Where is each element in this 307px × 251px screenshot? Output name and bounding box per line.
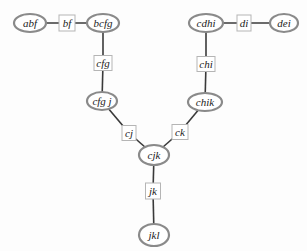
cluster-cjk: cjk <box>139 145 169 165</box>
junction-tree-diagram: bfcfgdichicjckjkabfbcfgcdhideicfg jchikc… <box>0 0 307 251</box>
separator-label: chi <box>199 58 212 70</box>
separator-di: di <box>237 15 251 31</box>
separator-jk: jk <box>146 183 161 199</box>
cluster-dei: dei <box>270 14 298 32</box>
cluster-label: dei <box>277 17 290 29</box>
cluster-label: bcfg <box>94 17 113 29</box>
cluster-label: cdhi <box>197 17 216 29</box>
edges-layer <box>30 23 284 235</box>
cluster-label: abf <box>23 17 39 29</box>
nodes-layer: bfcfgdichicjckjkabfbcfgcdhideicfg jchikc… <box>14 14 298 246</box>
separator-label: ck <box>175 126 186 138</box>
cluster-bcfg: bcfg <box>87 14 119 32</box>
cluster-cfgj: cfg j <box>87 92 117 110</box>
cluster-label: cfg j <box>92 95 111 107</box>
separator-bf: bf <box>59 15 75 31</box>
separator-chi: chi <box>197 57 215 72</box>
separator-label: di <box>240 17 249 29</box>
cluster-abf: abf <box>14 14 46 32</box>
cluster-label: jkl <box>147 229 160 241</box>
separator-ck: ck <box>172 125 188 140</box>
cluster-label: cjk <box>148 149 162 161</box>
cluster-chik: chik <box>188 93 222 111</box>
separator-label: jk <box>147 185 158 197</box>
cluster-label: chik <box>196 96 215 108</box>
separator-cfg: cfg <box>94 56 112 71</box>
separator-cj: cj <box>122 126 136 141</box>
separator-label: cj <box>125 127 133 139</box>
separator-label: cfg <box>96 57 110 69</box>
diagram-svg: bfcfgdichicjckjkabfbcfgcdhideicfg jchikc… <box>0 0 307 251</box>
cluster-jkl: jkl <box>139 224 169 246</box>
cluster-cdhi: cdhi <box>189 14 223 32</box>
